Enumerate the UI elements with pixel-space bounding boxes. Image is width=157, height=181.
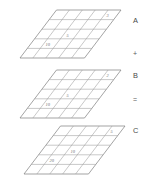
layer-stack-svg: 3 5 10 2 5 10: [0, 0, 157, 181]
layer-label-c: C: [133, 127, 138, 134]
raster-layer-b: 2 5 10: [20, 70, 121, 118]
layer-label-b: B: [133, 72, 138, 79]
raster-layer-c: 5 10 20: [24, 126, 125, 174]
operator-equals: =: [133, 96, 137, 103]
raster-layer-a: 3 5 10: [20, 10, 121, 58]
raster-layer-algebra-figure: 3 5 10 2 5 10: [0, 0, 157, 181]
operator-plus: +: [133, 50, 137, 57]
layer-label-a: A: [133, 17, 138, 24]
